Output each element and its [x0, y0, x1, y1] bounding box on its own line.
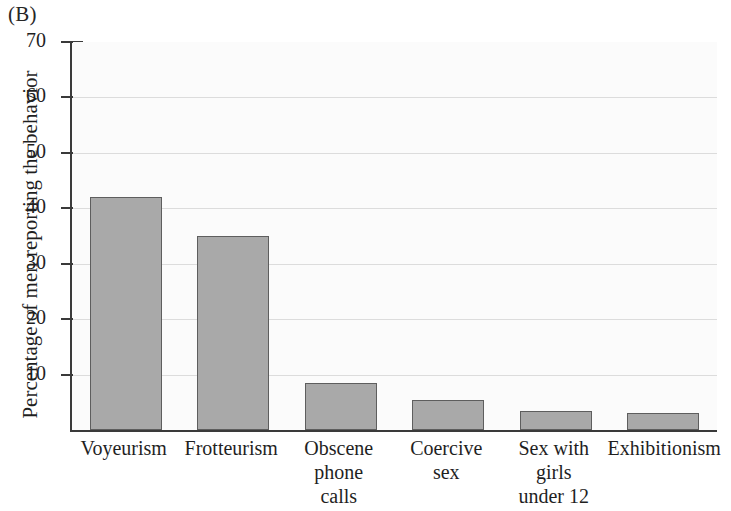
y-axis-tick-label: 30	[26, 251, 46, 274]
gridline	[72, 319, 717, 320]
y-axis-tick: 60	[61, 96, 73, 98]
x-axis-label: Exhibitionism	[608, 436, 716, 460]
x-axis-label: Obscenephonecalls	[285, 436, 393, 508]
y-axis-tick: 50	[61, 152, 73, 154]
y-axis-tick: 40	[61, 207, 73, 209]
y-axis-tick-label: 40	[26, 195, 46, 218]
x-axis-label-line: Sex with	[500, 436, 608, 460]
bar	[412, 400, 484, 430]
x-axis-label-line: Exhibitionism	[608, 436, 716, 460]
x-axis-label: Sex withgirlsunder 12	[500, 436, 608, 508]
x-axis-label-line: under 12	[500, 484, 608, 508]
x-axis-label-line: Coercive	[393, 436, 501, 460]
x-axis-label-line: phone	[285, 460, 393, 484]
x-axis-label: Coercivesex	[393, 436, 501, 484]
x-axis-label-line: Obscene	[285, 436, 393, 460]
x-axis-label: Voyeurism	[70, 436, 178, 460]
bar	[305, 383, 377, 430]
y-axis-tick-label: 10	[26, 362, 46, 385]
y-axis-tick-label: 70	[26, 29, 46, 52]
bar	[627, 413, 699, 430]
y-axis-tick: 10	[61, 374, 73, 376]
x-axis-label-line: calls	[285, 484, 393, 508]
x-axis-label-line: girls	[500, 460, 608, 484]
x-axis-label-line: Voyeurism	[70, 436, 178, 460]
y-axis-tick: 30	[61, 263, 73, 265]
gridline	[72, 375, 717, 376]
y-axis-tick: 70	[61, 41, 73, 43]
bar	[197, 236, 269, 430]
x-axis-label: Frotteurism	[178, 436, 286, 460]
plot-area: 70605040302010	[72, 42, 717, 430]
panel-label: (B)	[8, 2, 37, 27]
gridline	[72, 153, 717, 154]
y-axis-tick-label: 20	[26, 306, 46, 329]
bar	[90, 197, 162, 430]
x-axis-label-line: sex	[393, 460, 501, 484]
gridline	[72, 264, 717, 265]
y-axis-tick: 20	[61, 318, 73, 320]
bar-chart: 70605040302010	[70, 42, 717, 432]
x-axis-label-line: Frotteurism	[178, 436, 286, 460]
bar	[520, 411, 592, 430]
y-axis-tick-label: 60	[26, 84, 46, 107]
gridline	[72, 97, 717, 98]
y-axis-tick-label: 50	[26, 140, 46, 163]
gridline	[72, 208, 717, 209]
